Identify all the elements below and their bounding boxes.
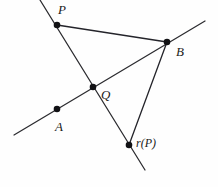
- label-point-P: P: [58, 3, 66, 16]
- point-Q: [90, 84, 97, 91]
- lines-group: [14, 0, 205, 170]
- label-point-rP: r(P): [136, 137, 156, 149]
- label-point-B: B: [176, 45, 184, 58]
- point-A: [54, 106, 61, 113]
- geometry-figure: P B Q A r(P): [0, 0, 218, 187]
- mirror-line-A-B: [14, 21, 205, 135]
- label-point-Q: Q: [101, 88, 110, 101]
- point-B: [164, 39, 171, 46]
- label-point-A: A: [55, 120, 63, 133]
- point-P: [54, 22, 61, 29]
- segment-B-rP: [129, 42, 167, 145]
- point-rP: [126, 142, 133, 149]
- segment-P-B: [57, 25, 167, 42]
- segments-group: [57, 25, 167, 145]
- points-group: [54, 22, 171, 149]
